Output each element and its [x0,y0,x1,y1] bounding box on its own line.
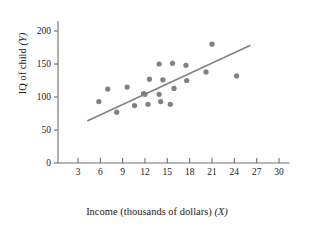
x-tick-label: 24 [230,167,240,177]
data-point [203,69,208,74]
x-tick-label: 27 [252,167,262,177]
data-point [158,99,163,104]
x-tick-labels: 36912151821242730 [76,167,284,177]
x-tick-label: 12 [140,167,150,177]
data-point [184,78,189,83]
data-point [171,86,176,91]
scatter-plot-figure: 050100150200 36912151821242730 IQ of chi… [0,0,314,228]
y-tick-label: 200 [37,26,52,36]
y-tick-label: 0 [46,158,51,168]
data-point [142,92,147,97]
data-point [170,61,175,66]
data-point [157,92,162,97]
x-tick-label: 30 [274,167,284,177]
data-point [209,42,214,47]
data-point [147,77,152,82]
data-point [145,102,150,107]
data-points [96,42,239,115]
x-tick-label: 18 [185,167,195,177]
data-point [183,63,188,68]
x-tick-marks [78,158,279,163]
x-tick-label: 3 [76,167,81,177]
data-point [234,73,239,78]
data-point [132,103,137,108]
x-axis-label: Income (thousands of dollars) (X) [0,206,314,217]
data-point [125,85,130,90]
data-point [105,86,110,91]
x-axis-label-text: Income (thousands of dollars) [86,206,214,217]
trend-line [88,46,250,121]
y-tick-marks [54,31,58,163]
data-point [168,102,173,107]
data-point [114,110,119,115]
x-tick-label: 21 [207,167,217,177]
regression-line [88,46,250,121]
x-tick-label: 15 [163,167,173,177]
y-tick-label: 50 [42,125,52,135]
x-tick-label: 6 [98,167,103,177]
plot-canvas: 050100150200 36912151821242730 [0,0,314,228]
y-axis-label-variable: (Y) [17,33,28,46]
y-axis-label-text: IQ of child [17,46,28,95]
y-tick-label: 150 [37,59,52,69]
x-tick-label: 9 [120,167,125,177]
axes [58,21,289,163]
y-tick-label: 100 [37,92,52,102]
data-point [157,61,162,66]
y-tick-labels: 050100150200 [37,26,52,168]
x-axis-label-variable: (X) [214,206,227,217]
data-point [160,77,165,82]
y-axis-label: IQ of child (Y) [17,4,28,124]
data-point [96,99,101,104]
